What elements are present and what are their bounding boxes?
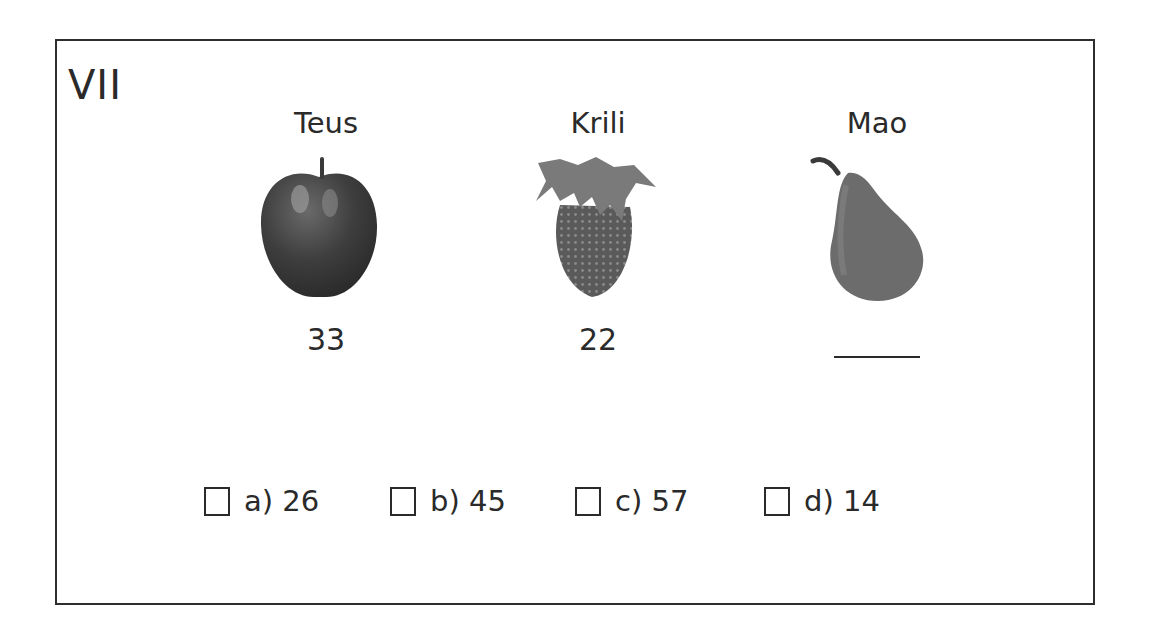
option-b[interactable]: b) 45 xyxy=(390,484,506,518)
item-value-krili: 22 xyxy=(518,322,678,357)
option-d[interactable]: d) 14 xyxy=(764,484,880,518)
apple-icon xyxy=(258,155,380,301)
pear-icon xyxy=(808,155,928,305)
question-number: VII xyxy=(68,62,122,108)
option-b-label: b) 45 xyxy=(430,484,506,518)
option-c-label: c) 57 xyxy=(615,484,688,518)
item-label-krili: Krili xyxy=(518,106,678,140)
checkbox-c[interactable] xyxy=(575,487,601,516)
checkbox-d[interactable] xyxy=(764,487,790,516)
option-c[interactable]: c) 57 xyxy=(575,484,688,518)
item-label-mao: Mao xyxy=(797,106,957,140)
option-a-label: a) 26 xyxy=(244,484,319,518)
item-value-teus: 33 xyxy=(246,322,406,357)
option-a[interactable]: a) 26 xyxy=(204,484,319,518)
item-label-teus: Teus xyxy=(246,106,406,140)
checkbox-a[interactable] xyxy=(204,487,230,516)
option-d-label: d) 14 xyxy=(804,484,880,518)
strawberry-icon xyxy=(530,155,660,301)
answer-blank xyxy=(834,356,920,358)
checkbox-b[interactable] xyxy=(390,487,416,516)
